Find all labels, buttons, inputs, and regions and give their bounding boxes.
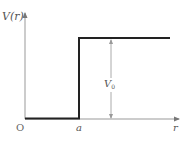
x-axis-label: r [173,122,179,133]
step-potential-diagram: V(r) O a r V0 [0,0,191,147]
step-height-label: V0 [104,78,115,90]
potential-curve [25,38,170,119]
y-axis-label: V(r) [2,10,24,23]
step-position-label: a [76,122,82,133]
origin-label: O [16,122,24,133]
